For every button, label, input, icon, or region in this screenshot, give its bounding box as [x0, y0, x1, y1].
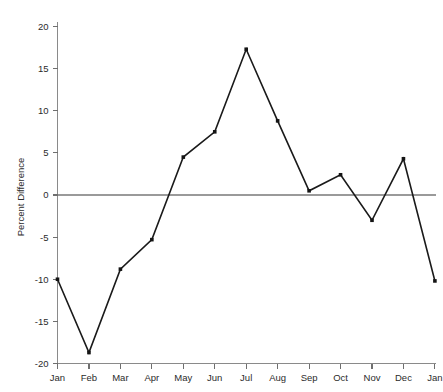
chart-background — [0, 0, 443, 392]
x-tick-label: May — [174, 372, 192, 383]
y-axis-title: Percent Difference — [15, 158, 26, 237]
chart-container: 20151050-5-10-15-20 JanFebMarAprMayJunJu… — [0, 0, 443, 392]
x-tick-label: Aug — [269, 372, 286, 383]
x-tick-label: Feb — [81, 372, 97, 383]
x-tick-label: Oct — [333, 372, 348, 383]
percent-difference-line-chart: 20151050-5-10-15-20 JanFebMarAprMayJunJu… — [0, 0, 443, 392]
x-tick-label: Jan — [50, 372, 65, 383]
x-tick-label: Apr — [144, 372, 159, 383]
x-tick-label: Dec — [395, 372, 412, 383]
y-tick-label: -20 — [35, 358, 49, 369]
y-tick-label: 10 — [38, 105, 49, 116]
data-point-marker — [433, 279, 437, 283]
y-tick-label: 15 — [38, 63, 49, 74]
y-tick-label: -10 — [35, 274, 49, 285]
data-point-marker — [213, 130, 217, 134]
data-point-marker — [87, 351, 91, 355]
data-point-marker — [370, 218, 374, 222]
data-point-marker — [119, 267, 123, 271]
x-tick-label: Mar — [112, 372, 128, 383]
data-point-marker — [307, 189, 311, 193]
x-tick-label: Jan — [427, 372, 442, 383]
data-point-marker — [56, 277, 60, 281]
x-tick-label: Jun — [207, 372, 222, 383]
x-tick-label: Jul — [240, 372, 252, 383]
x-tick-label: Nov — [364, 372, 381, 383]
data-point-marker — [150, 238, 154, 242]
y-tick-label: 20 — [38, 21, 49, 32]
data-point-marker — [276, 119, 280, 123]
x-tick-label: Sep — [301, 372, 318, 383]
data-point-marker — [182, 155, 186, 159]
y-tick-label: 5 — [43, 147, 48, 158]
data-point-marker — [244, 47, 248, 51]
y-tick-label: -15 — [35, 316, 49, 327]
y-tick-label: 0 — [43, 189, 48, 200]
y-tick-label: -5 — [40, 232, 48, 243]
data-point-marker — [339, 173, 343, 177]
data-point-marker — [402, 157, 406, 161]
